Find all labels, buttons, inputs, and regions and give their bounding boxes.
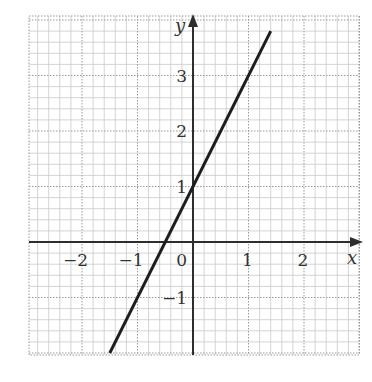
tick-labels: −2−112−1123	[63, 66, 308, 308]
y-axis-label: y	[174, 15, 186, 36]
y-tick-label: −1	[162, 288, 187, 308]
x-axis-arrow-icon	[350, 237, 363, 247]
axes	[29, 14, 363, 355]
x-tick-label: 2	[298, 250, 309, 270]
data-line-y-equals-2x-plus-1	[110, 31, 271, 353]
x-axis-label: x	[347, 247, 357, 268]
x-tick-label: −1	[118, 250, 143, 270]
y-tick-label: 1	[176, 177, 187, 197]
origin-label: 0	[176, 250, 187, 270]
y-tick-label: 2	[176, 121, 187, 141]
x-tick-label: −2	[63, 250, 88, 270]
x-tick-label: 1	[242, 250, 253, 270]
y-tick-label: 3	[176, 66, 187, 86]
line-chart: −2−112−1123 x y 0	[0, 0, 372, 382]
